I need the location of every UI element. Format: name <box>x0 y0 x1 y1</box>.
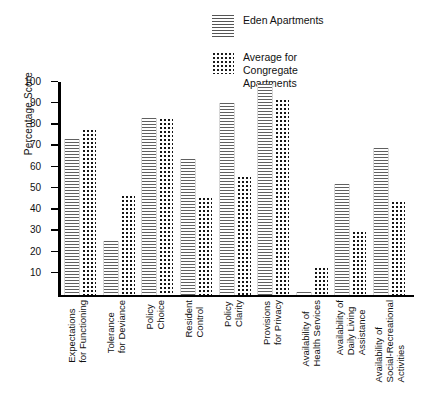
x-axis-label-cell: PolicyClarity <box>214 300 253 396</box>
x-axis-label-line: Tolerance <box>105 300 116 353</box>
y-tick-label: 100 <box>24 75 41 86</box>
x-axis-labels: Expectationsfor FunctioningTolerancefor … <box>58 300 408 396</box>
bar-groups <box>61 82 408 295</box>
bar-eden <box>64 139 80 294</box>
x-axis-label-line: Provisions <box>261 300 272 345</box>
bar-eden <box>103 241 119 294</box>
bar-group <box>61 82 100 295</box>
x-axis-label-line: Daily Living <box>344 300 355 355</box>
y-tick: 50 <box>51 187 58 189</box>
bar-average <box>121 195 135 295</box>
bar-average <box>159 118 173 294</box>
x-axis-label-line: Clarity <box>233 300 244 327</box>
x-axis-label-line: Policy <box>144 300 155 330</box>
y-tick: 30 <box>51 229 58 231</box>
x-axis-label: Expectationsfor Functioning <box>66 300 88 363</box>
x-axis-label-line: Social-Recreational <box>383 300 394 382</box>
y-tick: 90 <box>51 102 58 104</box>
y-tick-label: 40 <box>30 203 41 214</box>
x-axis-label-cell: Availability ofDaily LivingAssistance <box>330 300 369 396</box>
bar-eden <box>334 184 350 295</box>
x-axis-label: Tolerancefor Deviance <box>105 300 127 353</box>
y-tick: 10 <box>51 272 58 274</box>
bar-group <box>370 82 409 295</box>
y-tick: 40 <box>51 208 58 210</box>
x-axis-label-cell: Availability ofSocial-RecreationalActivi… <box>369 300 408 396</box>
y-tick-label: 60 <box>30 160 41 171</box>
x-axis-label: ResidentControl <box>183 300 205 338</box>
y-tick-label: 70 <box>30 139 41 150</box>
y-tick-label: 90 <box>30 96 41 107</box>
y-tick-label: 30 <box>30 224 41 235</box>
x-axis-label-cell: Availability ofHealth Services <box>291 300 330 396</box>
bar-group <box>215 82 254 295</box>
plot-area: 102030405060708090100 <box>58 82 408 297</box>
bar-eden <box>219 103 235 294</box>
x-axis-label-line: Availability of <box>333 300 344 355</box>
bar-average <box>82 129 96 295</box>
bar-group <box>138 82 177 295</box>
x-axis-label-cell: ResidentControl <box>175 300 214 396</box>
bar-average <box>314 267 328 295</box>
x-axis-label-line: for Privacy <box>272 300 283 345</box>
y-tick: 70 <box>51 144 58 146</box>
bar-group <box>254 82 293 295</box>
x-axis-label-line: for Functioning <box>77 300 88 363</box>
y-tick: 80 <box>51 123 58 125</box>
x-axis-label-cell: Expectationsfor Functioning <box>58 300 97 396</box>
legend-item-eden: Eden Apartments <box>212 14 427 37</box>
x-axis-label-cell: Tolerancefor Deviance <box>97 300 136 396</box>
bar-eden <box>141 118 157 294</box>
y-tick-label: 10 <box>30 266 41 277</box>
y-tick-label: 80 <box>30 118 41 129</box>
x-axis-label-line: Expectations <box>66 300 77 363</box>
x-axis-label: Provisionsfor Privacy <box>261 300 283 345</box>
x-axis-label-line: Control <box>194 300 205 338</box>
x-axis-label-cell: PolicyChoice <box>136 300 175 396</box>
x-axis-label: Availability ofSocial-RecreationalActivi… <box>372 300 405 382</box>
y-tick-label: 50 <box>30 181 41 192</box>
bar-chart: Eden Apartments Average for Congregate A… <box>0 0 431 396</box>
legend-avg-line-2: Congregate <box>243 64 298 76</box>
bar-eden <box>180 159 196 295</box>
y-tick: 100 <box>51 81 58 83</box>
x-axis-label-line: Availability of <box>372 300 383 382</box>
bar-average <box>237 176 251 295</box>
bar-group <box>292 82 331 295</box>
y-tick: 60 <box>51 166 58 168</box>
hatch-swatch-icon <box>212 15 234 37</box>
bar-group <box>100 82 139 295</box>
x-axis-label: Availability ofHealth Services <box>300 300 322 367</box>
x-axis-label-cell: Provisionsfor Privacy <box>252 300 291 396</box>
x-axis-label-line: Activities <box>394 300 405 382</box>
x-axis-label-line: Availability of <box>300 300 311 367</box>
legend-item-eden-label: Eden Apartments <box>243 14 324 27</box>
y-tick: 20 <box>51 251 58 253</box>
bar-eden <box>296 292 312 294</box>
bar-average <box>198 197 212 295</box>
x-axis-label-line: Resident <box>183 300 194 338</box>
x-axis-label-line: Policy <box>222 300 233 327</box>
y-tick-label: 20 <box>30 245 41 256</box>
bar-group <box>331 82 370 295</box>
dots-swatch-icon <box>212 52 234 74</box>
bar-average <box>352 231 366 295</box>
x-axis-label-line: Health Services <box>311 300 322 367</box>
bar-average <box>391 201 405 295</box>
y-axis-title: Percentage Score <box>23 24 34 204</box>
x-axis-line <box>58 295 414 298</box>
bar-eden <box>257 84 273 294</box>
x-axis-label: PolicyClarity <box>222 300 244 327</box>
bar-average <box>275 99 289 295</box>
x-axis-label: PolicyChoice <box>144 300 166 330</box>
x-axis-label: Availability ofDaily LivingAssistance <box>333 300 366 355</box>
x-axis-label-line: for Deviance <box>116 300 127 353</box>
bar-eden <box>373 148 389 295</box>
x-axis-label-line: Assistance <box>355 300 366 355</box>
x-axis-label-line: Choice <box>155 300 166 330</box>
bar-group <box>177 82 216 295</box>
legend-avg-line-1: Average for <box>243 51 297 63</box>
